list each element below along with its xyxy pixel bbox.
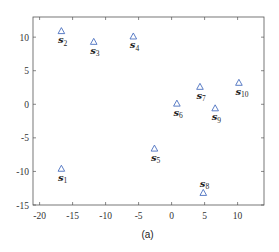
point-label: s10 [235, 86, 248, 100]
point-label: s3 [90, 45, 100, 59]
data-points: s1s2s3s4s5s6s7s8s9s10 [58, 28, 249, 196]
point-label: s5 [151, 152, 161, 166]
triangle-marker-icon [130, 33, 137, 39]
x-tick-label: 0 [169, 211, 174, 221]
x-tick-label: 10 [233, 211, 243, 221]
plot-frame [33, 17, 264, 205]
x-tick-label: -5 [135, 211, 143, 221]
data-point-s10: s10 [235, 79, 248, 99]
axes: -20-15-10-50510-15-10-50510 [16, 17, 264, 221]
data-point-s8: s8 [200, 178, 210, 196]
data-point-s4: s4 [130, 33, 140, 53]
triangle-marker-icon [90, 38, 97, 44]
x-tick-label: 5 [202, 211, 207, 221]
triangle-marker-icon [236, 79, 243, 85]
x-tick-label: -20 [33, 211, 46, 221]
triangle-marker-icon [174, 100, 181, 106]
point-label: s6 [173, 107, 183, 121]
point-label: s9 [212, 111, 222, 125]
triangle-marker-icon [151, 145, 158, 151]
y-tick-label: -15 [16, 201, 29, 211]
y-tick-label: 10 [20, 33, 30, 43]
triangle-marker-icon [197, 83, 204, 89]
data-point-s6: s6 [173, 100, 183, 120]
y-tick-label: -5 [21, 133, 29, 143]
triangle-marker-icon [58, 28, 65, 34]
data-point-s7: s7 [196, 83, 206, 103]
triangle-marker-icon [212, 105, 219, 111]
point-label: s8 [200, 178, 210, 192]
x-tick-label: -15 [66, 211, 79, 221]
y-tick-label: -10 [16, 167, 29, 177]
x-tick-label: -10 [99, 211, 112, 221]
point-label: s2 [58, 34, 68, 48]
point-label: s7 [196, 90, 206, 104]
data-point-s3: s3 [90, 38, 100, 58]
data-point-s5: s5 [151, 145, 161, 165]
point-label: s4 [130, 39, 140, 53]
triangle-marker-icon [58, 165, 65, 171]
y-tick-label: 0 [24, 100, 29, 110]
data-point-s1: s1 [58, 165, 68, 185]
figure-caption: (a) [0, 229, 279, 240]
point-label: s1 [58, 172, 68, 186]
y-tick-label: 5 [24, 66, 29, 76]
data-point-s9: s9 [212, 105, 222, 125]
data-point-s2: s2 [58, 28, 68, 48]
scatter-chart: -20-15-10-50510-15-10-50510 s1s2s3s4s5s6… [0, 0, 279, 252]
